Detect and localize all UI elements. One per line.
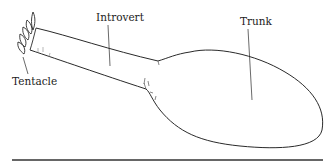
trunk-label: Trunk xyxy=(240,16,272,27)
trunk-outline xyxy=(146,50,323,148)
trunk-leader-line xyxy=(248,29,252,100)
tentacle-label: Tentacle xyxy=(12,76,57,87)
introvert-leader-line xyxy=(108,25,110,66)
tentacle-leader-line xyxy=(23,57,28,74)
tentacles xyxy=(18,12,36,54)
introvert-marks xyxy=(38,47,50,57)
introvert-label: Introvert xyxy=(96,12,144,23)
introvert-upper-edge xyxy=(36,28,190,61)
neck-marks xyxy=(144,61,159,100)
